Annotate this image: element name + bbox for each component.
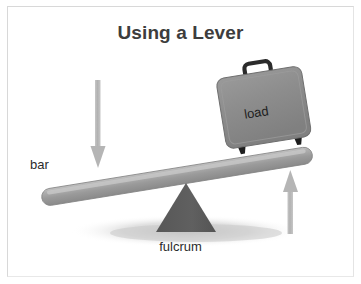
lever-bar xyxy=(40,146,313,207)
lever-diagram-figure: Using a Lever bar fulcrum load xyxy=(0,0,361,284)
label-fulcrum: fulcrum xyxy=(0,239,361,254)
page-title: Using a Lever xyxy=(0,22,361,44)
label-bar: bar xyxy=(30,157,49,172)
fulcrum-triangle xyxy=(156,183,216,232)
down-arrow-effort xyxy=(91,80,106,168)
